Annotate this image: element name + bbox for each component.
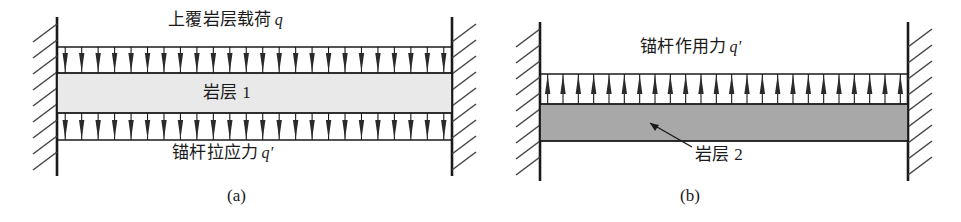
- load-arrow-down: [244, 113, 249, 140]
- load-arrow-down: [79, 113, 84, 140]
- load-arrow-down: [408, 113, 413, 140]
- load-arrow-down: [293, 47, 298, 73]
- top-load-symbol: q: [272, 11, 283, 28]
- load-arrow-down: [227, 113, 232, 140]
- load-arrow-down: [161, 47, 166, 73]
- load-arrow-down: [211, 47, 216, 73]
- beam-rock-layer-1: [57, 73, 452, 113]
- beam-label: 岩层 2: [695, 145, 743, 164]
- load-arrow-up: [882, 74, 887, 104]
- load-arrow-up: [744, 74, 749, 104]
- load-arrow-down: [211, 113, 216, 140]
- panel-a: 上覆岩层载荷q 岩层 1 锚杆拉应力q′ (a): [0, 0, 487, 222]
- load-arrow-down: [260, 47, 265, 73]
- load-arrow-down: [326, 113, 331, 140]
- load-arrow-up: [652, 74, 657, 104]
- top-load-label: 锚杆作用力q′: [640, 37, 742, 56]
- load-arrow-down: [112, 113, 117, 140]
- bottom-load-label: 锚杆拉应力q′: [172, 143, 274, 162]
- load-arrow-down: [309, 113, 314, 140]
- panel-b-caption: (b): [680, 186, 700, 206]
- bottom-load-text: 锚杆拉应力: [172, 143, 259, 162]
- top-load-text: 上覆岩层载荷: [168, 10, 272, 29]
- top-distributed-load: [57, 47, 452, 73]
- panel-b-graphics: [487, 0, 961, 222]
- load-arrow-up: [898, 74, 903, 104]
- load-arrow-down: [161, 113, 166, 140]
- load-arrow-down: [293, 113, 298, 140]
- load-arrow-down: [63, 113, 68, 140]
- load-arrow-down: [375, 47, 380, 73]
- load-arrow-up: [683, 74, 688, 104]
- beam-rock-layer-2: [540, 104, 908, 141]
- load-arrow-up: [560, 74, 565, 104]
- load-arrow-down: [145, 47, 150, 73]
- load-arrow-down: [178, 47, 183, 73]
- panel-a-caption: (a): [227, 186, 246, 206]
- load-arrow-down: [342, 47, 347, 73]
- top-load-text: 锚杆作用力: [640, 37, 727, 56]
- load-arrow-up: [836, 74, 841, 104]
- load-arrow-down: [425, 113, 430, 140]
- load-arrow-up: [591, 74, 596, 104]
- right-fixed-support: [452, 17, 476, 176]
- load-arrow-down: [112, 47, 117, 73]
- load-arrow-down: [79, 47, 84, 73]
- left-fixed-support: [33, 17, 57, 176]
- load-arrow-up: [576, 74, 581, 104]
- load-arrow-down: [145, 113, 150, 140]
- load-arrow-down: [276, 113, 281, 140]
- load-arrow-up: [545, 74, 550, 104]
- top-load-label: 上覆岩层载荷q: [168, 10, 283, 29]
- load-arrow-down: [63, 47, 68, 73]
- load-arrow-down: [309, 47, 314, 73]
- load-arrow-down: [95, 113, 100, 140]
- load-arrow-down: [441, 47, 446, 73]
- load-arrow-down: [359, 113, 364, 140]
- figure-root: 上覆岩层载荷q 岩层 1 锚杆拉应力q′ (a): [0, 0, 961, 222]
- load-arrow-up: [606, 74, 611, 104]
- load-arrow-up: [821, 74, 826, 104]
- load-arrow-up: [790, 74, 795, 104]
- beam-label-text: 岩层 1: [203, 83, 251, 102]
- load-arrow-down: [95, 47, 100, 73]
- load-arrow-up: [637, 74, 642, 104]
- load-arrow-down: [244, 47, 249, 73]
- load-arrow-up: [867, 74, 872, 104]
- load-arrow-down: [326, 47, 331, 73]
- bottom-load-symbol: q′: [259, 144, 274, 161]
- left-fixed-support: [516, 22, 540, 181]
- panel-b: 锚杆作用力q′ 岩层 2 (b): [487, 0, 961, 222]
- load-arrow-up: [806, 74, 811, 104]
- top-distributed-load: [540, 74, 908, 104]
- load-arrow-down: [178, 113, 183, 140]
- beam-label-text: 岩层 2: [695, 145, 743, 164]
- load-arrow-down: [128, 47, 133, 73]
- load-arrow-down: [359, 47, 364, 73]
- load-arrow-down: [342, 113, 347, 140]
- load-arrow-down: [194, 113, 199, 140]
- load-arrow-down: [260, 113, 265, 140]
- load-arrow-down: [227, 47, 232, 73]
- load-arrow-down: [392, 47, 397, 73]
- load-arrow-down: [425, 47, 430, 73]
- load-arrow-down: [194, 47, 199, 73]
- load-arrow-down: [128, 113, 133, 140]
- load-arrow-up: [698, 74, 703, 104]
- load-arrow-down: [441, 113, 446, 140]
- load-arrow-up: [668, 74, 673, 104]
- load-arrow-up: [760, 74, 765, 104]
- load-arrow-up: [775, 74, 780, 104]
- top-load-symbol: q′: [727, 38, 742, 55]
- bottom-distributed-load: [57, 113, 452, 140]
- load-arrow-up: [622, 74, 627, 104]
- load-arrow-down: [375, 113, 380, 140]
- right-fixed-support: [908, 22, 932, 181]
- load-arrow-down: [408, 47, 413, 73]
- load-arrow-up: [729, 74, 734, 104]
- load-arrow-up: [852, 74, 857, 104]
- load-arrow-down: [392, 113, 397, 140]
- load-arrow-up: [714, 74, 719, 104]
- beam-label: 岩层 1: [203, 83, 251, 102]
- load-arrow-down: [276, 47, 281, 73]
